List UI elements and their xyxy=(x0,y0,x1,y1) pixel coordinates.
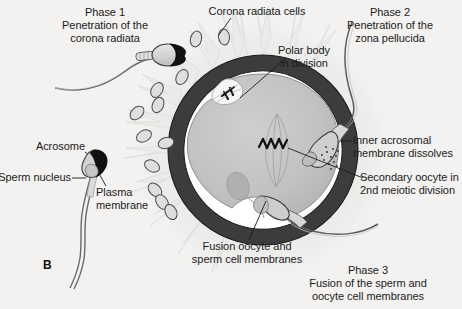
fusion-label-line2: sperm cell membranes xyxy=(192,253,302,265)
phase3-line2: Fusion of the sperm and xyxy=(309,277,426,289)
secondary-oocyte-label-line2: 2nd meiotic division xyxy=(360,184,455,196)
plasma-membrane-label-line1: Plasma xyxy=(96,186,132,198)
phase1-line2: Penetration of the xyxy=(62,19,148,31)
secondary-oocyte-label: Secondary oocyte in 2nd meiotic division xyxy=(360,171,459,197)
phase2-line1: Phase 2 xyxy=(370,6,410,18)
fusion-membranes-label: Fusion oocyte and sperm cell membranes xyxy=(192,240,302,266)
phase3-caption: Phase 3 Fusion of the sperm and oocyte c… xyxy=(309,264,426,304)
phase2-line3: zona pellucida xyxy=(355,32,425,44)
secondary-oocyte-label-line1: Secondary oocyte in xyxy=(360,171,459,183)
phase2-caption: Phase 2 Penetration of the zona pellucid… xyxy=(347,6,433,46)
plasma-membrane-label: Plasma membrane xyxy=(96,186,148,212)
polar-body-label: Polar body in division xyxy=(278,44,330,70)
acrosome-label: Acrosome xyxy=(36,140,85,153)
corona-radiata-cells-label: Corona radiata cells xyxy=(209,5,306,18)
plasma-membrane-label-line2: membrane xyxy=(96,199,148,211)
phase1-line3: corona radiata xyxy=(70,32,140,44)
inner-acrosomal-label-line1: Inner acrosomal xyxy=(353,134,431,146)
phase1-line1: Phase 1 xyxy=(85,6,125,18)
inner-acrosomal-label-line2: membrane dissolves xyxy=(353,147,453,159)
polar-body-label-line2: in division xyxy=(280,57,328,69)
inner-acrosomal-membrane-label: Inner acrosomal membrane dissolves xyxy=(353,134,453,160)
sperm-detail-nucleus xyxy=(86,164,99,177)
phase1-caption: Phase 1 Penetration of the corona radiat… xyxy=(62,6,148,46)
fusion-label-line1: Fusion oocyte and xyxy=(202,240,291,252)
phase2-line2: Penetration of the xyxy=(347,19,433,31)
fertilization-figure: Phase 1 Penetration of the corona radiat… xyxy=(0,0,462,309)
phase3-line3: oocyte cell membranes xyxy=(312,290,424,302)
sperm-nucleus-label: Sperm nucleus xyxy=(0,171,71,184)
panel-letter-b: B xyxy=(43,258,52,272)
polar-body-label-line1: Polar body xyxy=(278,44,330,56)
phase3-line1: Phase 3 xyxy=(348,264,388,276)
